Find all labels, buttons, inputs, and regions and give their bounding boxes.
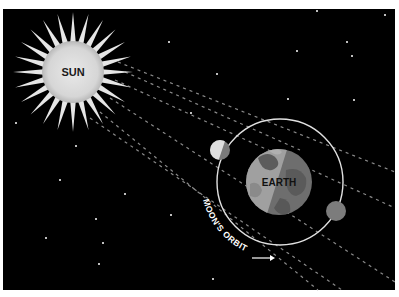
star bbox=[45, 237, 47, 239]
star bbox=[168, 41, 170, 43]
star bbox=[98, 263, 100, 265]
star bbox=[102, 242, 104, 244]
star bbox=[170, 214, 172, 216]
star bbox=[95, 218, 97, 220]
star bbox=[287, 98, 289, 100]
star bbox=[75, 145, 77, 147]
sun-earth-moon-diagram: SUN EARTH MOON'S ORBIT bbox=[0, 0, 399, 297]
star bbox=[124, 193, 126, 195]
star bbox=[190, 112, 192, 114]
sun-label: SUN bbox=[61, 66, 84, 78]
star bbox=[59, 179, 61, 181]
star bbox=[212, 278, 214, 280]
star bbox=[353, 99, 355, 101]
star bbox=[296, 50, 298, 52]
sun: SUN bbox=[13, 12, 133, 132]
moon-right bbox=[326, 201, 346, 221]
star bbox=[351, 55, 353, 57]
star bbox=[346, 41, 348, 43]
star bbox=[384, 14, 386, 16]
earth-label: EARTH bbox=[262, 177, 296, 188]
star bbox=[216, 73, 218, 75]
star bbox=[316, 10, 318, 12]
star bbox=[15, 122, 17, 124]
